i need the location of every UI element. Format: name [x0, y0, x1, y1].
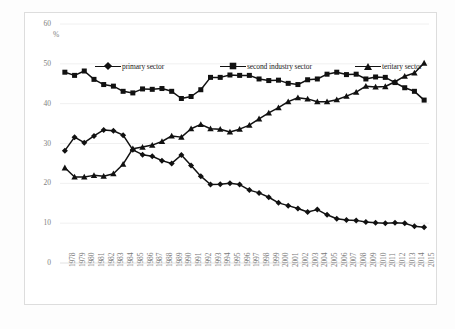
- y-tick-50: 50: [33, 59, 51, 68]
- chart-plot-frame: % 0102030405060 197819791980198119821983…: [24, 12, 437, 305]
- x-tick-2006: 2006: [340, 253, 349, 267]
- data-point: [169, 89, 174, 94]
- x-tick-1997: 1997: [252, 253, 261, 267]
- legend-label: second industry sector: [247, 62, 312, 71]
- x-tick-1990: 1990: [184, 253, 193, 267]
- data-point: [285, 203, 291, 209]
- x-tick-2008: 2008: [359, 253, 368, 267]
- x-tick-1984: 1984: [126, 253, 135, 267]
- x-tick-1992: 1992: [204, 253, 213, 267]
- x-tick-1982: 1982: [107, 253, 116, 267]
- data-point: [62, 165, 68, 171]
- data-point: [305, 209, 311, 215]
- data-point: [159, 158, 165, 164]
- data-point: [275, 200, 281, 206]
- data-point: [256, 116, 262, 122]
- series-line: [65, 71, 424, 100]
- x-tick-2004: 2004: [320, 253, 329, 267]
- data-point: [159, 86, 164, 91]
- data-point: [286, 81, 291, 86]
- data-point: [140, 86, 145, 91]
- legend-item-second-industry-sector[interactable]: second industry sector: [220, 59, 312, 73]
- data-point: [111, 84, 116, 89]
- data-point: [373, 74, 378, 79]
- data-point: [363, 76, 368, 81]
- x-tick-1987: 1987: [155, 253, 164, 267]
- x-tick-1985: 1985: [136, 253, 145, 267]
- x-tick-1998: 1998: [262, 253, 271, 267]
- x-tick-1981: 1981: [97, 253, 106, 267]
- legend-item-teritary-sector[interactable]: teritary sector: [355, 59, 422, 73]
- y-tick-60: 60: [33, 19, 51, 28]
- x-tick-2009: 2009: [369, 253, 378, 267]
- data-point: [266, 78, 271, 83]
- data-point: [373, 220, 379, 226]
- x-tick-2011: 2011: [388, 253, 397, 267]
- x-tick-2013: 2013: [408, 253, 417, 267]
- y-tick-20: 20: [33, 178, 51, 187]
- data-point: [353, 217, 359, 223]
- series-primary-sector: [62, 127, 427, 230]
- x-tick-1980: 1980: [87, 253, 96, 267]
- data-point: [62, 70, 67, 75]
- data-point: [353, 89, 359, 95]
- data-point: [314, 207, 320, 213]
- data-point: [363, 219, 369, 225]
- y-tick-40: 40: [33, 99, 51, 108]
- data-point: [324, 212, 330, 218]
- legend-label: primary sector: [122, 62, 164, 71]
- chart-legend: primary sectorsecond industry sectorteri…: [85, 59, 445, 75]
- square-glyph-icon: [230, 63, 237, 70]
- data-point: [237, 182, 243, 188]
- data-point: [217, 181, 223, 187]
- data-point: [343, 217, 349, 223]
- x-tick-1991: 1991: [194, 253, 203, 267]
- data-point: [257, 76, 262, 81]
- data-point: [402, 85, 407, 90]
- data-point: [276, 78, 281, 83]
- data-point: [421, 224, 427, 230]
- x-tick-1988: 1988: [165, 253, 174, 267]
- data-point: [402, 220, 408, 226]
- data-point: [121, 89, 126, 94]
- y-tick-30: 30: [33, 139, 51, 148]
- data-point: [130, 90, 135, 95]
- x-tick-1979: 1979: [78, 253, 87, 267]
- data-point: [334, 216, 340, 222]
- x-tick-1978: 1978: [68, 253, 77, 267]
- data-point: [110, 128, 116, 134]
- data-point: [383, 75, 388, 80]
- data-point: [275, 104, 281, 110]
- triangle-glyph-icon: [364, 63, 372, 70]
- x-tick-1994: 1994: [223, 253, 232, 267]
- data-point: [412, 89, 417, 94]
- data-point: [198, 87, 203, 92]
- series-line: [65, 130, 424, 227]
- data-point: [295, 82, 300, 87]
- data-point: [208, 75, 213, 80]
- data-point: [140, 152, 146, 158]
- data-point: [266, 110, 272, 116]
- data-point: [422, 98, 427, 103]
- x-tick-1983: 1983: [116, 253, 125, 267]
- diamond-marker-icon: [95, 61, 121, 71]
- data-point: [101, 82, 106, 87]
- data-point: [266, 194, 272, 200]
- series-line: [65, 63, 424, 177]
- data-point: [382, 220, 388, 226]
- data-point: [305, 77, 310, 82]
- legend-item-primary-sector[interactable]: primary sector: [95, 59, 164, 73]
- data-point: [411, 223, 417, 229]
- data-point: [189, 94, 194, 99]
- x-tick-2000: 2000: [281, 253, 290, 267]
- y-tick-0: 0: [33, 258, 51, 267]
- y-tick-10: 10: [33, 218, 51, 227]
- x-tick-2012: 2012: [398, 253, 407, 267]
- data-point: [218, 75, 223, 80]
- data-point: [392, 220, 398, 226]
- x-tick-2007: 2007: [349, 253, 358, 267]
- diamond-glyph-icon: [104, 62, 112, 70]
- square-marker-icon: [220, 61, 246, 71]
- data-point: [256, 190, 262, 196]
- data-point: [246, 187, 252, 193]
